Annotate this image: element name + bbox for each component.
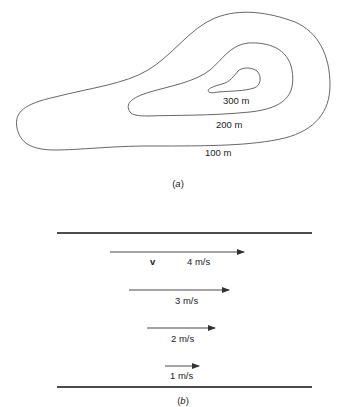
velocity-label-1: 1 m/s [170, 370, 193, 381]
velocity-label-2: 2 m/s [171, 333, 194, 344]
contour-label-300m: 300 m [223, 95, 249, 106]
caption-a: (a) [172, 178, 184, 189]
contour-map: 300 m 200 m 100 m (a) [16, 12, 330, 189]
contour-200m [128, 43, 293, 116]
contour-300m [208, 68, 260, 93]
contour-100m [16, 12, 330, 150]
velocity-label-3: 3 m/s [175, 295, 198, 306]
vector-symbol-v: v [150, 256, 156, 267]
contour-label-100m: 100 m [205, 147, 231, 158]
contour-label-200m: 200 m [216, 119, 242, 130]
caption-b: (b) [177, 395, 189, 406]
figure: 300 m 200 m 100 m (a) v 4 m/s 3 m/s 2 m/… [0, 0, 339, 407]
velocity-label-4: 4 m/s [187, 256, 210, 267]
velocity-profile: v 4 m/s 3 m/s 2 m/s 1 m/s (b) [57, 233, 312, 406]
